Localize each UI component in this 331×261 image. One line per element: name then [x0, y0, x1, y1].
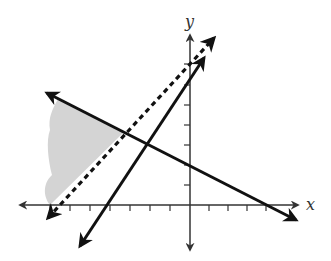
x-axis-label: x: [306, 195, 315, 214]
shaded-region: [45, 99, 124, 205]
x-axis: x: [20, 195, 315, 214]
x-ticks: [50, 205, 266, 211]
y-axis-label: y: [184, 12, 195, 31]
y-axis: y: [184, 12, 195, 250]
graph: x y: [0, 0, 331, 261]
